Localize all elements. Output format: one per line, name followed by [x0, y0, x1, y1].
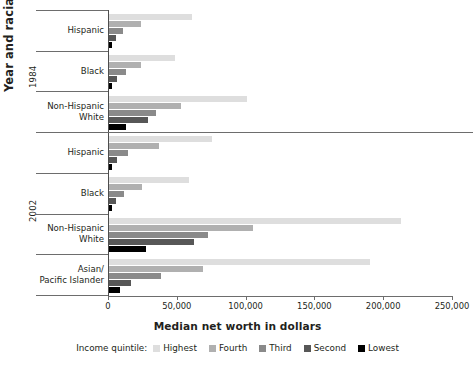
- category-label: Black: [0, 66, 104, 77]
- legend-item-lowest[interactable]: Lowest: [358, 343, 399, 353]
- category-divider: [36, 10, 108, 11]
- category-label: Non-Hispanic White: [0, 101, 104, 122]
- bar-third: [109, 232, 208, 238]
- bar-third: [109, 28, 123, 34]
- category-label: Asian/ Pacific Islander: [0, 264, 104, 285]
- bar-second: [109, 280, 131, 286]
- legend-label: Third: [269, 343, 291, 353]
- x-tick-label: 150,000: [284, 301, 344, 311]
- bar-lowest: [109, 124, 126, 130]
- category-divider: [36, 51, 108, 52]
- bar-lowest: [109, 83, 112, 89]
- bar-highest: [109, 136, 212, 142]
- bar-lowest: [109, 205, 112, 211]
- legend-swatch-icon: [358, 345, 365, 352]
- legend-items-host: HighestFourthThirdSecondLowest: [153, 343, 399, 353]
- bar-highest: [109, 14, 192, 20]
- legend-swatch-icon: [304, 345, 311, 352]
- category-label: Hispanic: [0, 25, 104, 36]
- x-tick-label: 100,000: [216, 301, 276, 311]
- bar-third: [109, 150, 128, 156]
- bar-lowest: [109, 246, 146, 252]
- category-label: Hispanic: [0, 147, 104, 158]
- bar-row: Hispanic: [0, 133, 475, 174]
- bar-cluster: [109, 14, 192, 49]
- x-tick-label: 0: [78, 301, 138, 311]
- bar-second: [109, 198, 116, 204]
- bar-row: Black: [0, 174, 475, 215]
- bar-cluster: [109, 96, 247, 131]
- legend: Income quintile: HighestFourthThirdSecon…: [0, 343, 475, 353]
- bar-row: Non-Hispanic White: [0, 215, 475, 256]
- x-axis-title: Median net worth in dollars: [0, 320, 475, 332]
- bar-cluster: [109, 136, 212, 171]
- bar-cluster: [109, 177, 189, 212]
- legend-swatch-icon: [209, 345, 216, 352]
- bar-second: [109, 76, 117, 82]
- x-tick-label: 200,000: [353, 301, 413, 311]
- bar-lowest: [109, 287, 120, 293]
- bar-cluster: [109, 218, 401, 253]
- bar-second: [109, 117, 148, 123]
- bar-highest: [109, 218, 401, 224]
- bar-highest: [109, 177, 189, 183]
- bar-row: Hispanic: [0, 11, 475, 52]
- legend-item-second[interactable]: Second: [304, 343, 346, 353]
- year-block-divider: [36, 132, 473, 133]
- x-tick: [452, 296, 453, 300]
- bar-lowest: [109, 42, 112, 48]
- bar-third: [109, 191, 124, 197]
- bar-second: [109, 35, 116, 41]
- bar-fourth: [109, 184, 142, 190]
- legend-title: Income quintile:: [76, 343, 147, 353]
- bar-row: Non-Hispanic White: [0, 92, 475, 133]
- category-divider: [36, 214, 108, 215]
- legend-swatch-icon: [153, 345, 160, 352]
- bar-row: Black: [0, 52, 475, 93]
- category-divider: [36, 254, 108, 255]
- legend-label: Lowest: [368, 343, 399, 353]
- x-tick-label: 50,000: [147, 301, 207, 311]
- bar-second: [109, 157, 117, 163]
- bar-cluster: [109, 259, 370, 294]
- x-tick-label: 250,000: [422, 301, 475, 311]
- legend-item-fourth[interactable]: Fourth: [209, 343, 247, 353]
- bar-fourth: [109, 266, 203, 272]
- bar-third: [109, 110, 156, 116]
- legend-item-third[interactable]: Third: [259, 343, 291, 353]
- x-tick: [177, 296, 178, 300]
- bar-fourth: [109, 21, 141, 27]
- bar-highest: [109, 96, 247, 102]
- bar-fourth: [109, 62, 141, 68]
- legend-item-highest[interactable]: Highest: [153, 343, 197, 353]
- bar-fourth: [109, 143, 159, 149]
- category-divider: [36, 295, 108, 296]
- x-axis-line: [108, 296, 453, 297]
- legend-label: Second: [314, 343, 346, 353]
- bar-fourth: [109, 103, 181, 109]
- category-label: Black: [0, 188, 104, 199]
- legend-label: Highest: [163, 343, 197, 353]
- x-tick: [383, 296, 384, 300]
- bar-lowest: [109, 164, 112, 170]
- category-divider: [36, 91, 108, 92]
- legend-swatch-icon: [259, 345, 266, 352]
- legend-label: Fourth: [219, 343, 247, 353]
- bar-highest: [109, 259, 370, 265]
- bar-second: [109, 239, 194, 245]
- x-tick: [108, 296, 109, 300]
- bar-highest: [109, 55, 175, 61]
- bar-fourth: [109, 225, 253, 231]
- category-label: Non-Hispanic White: [0, 223, 104, 244]
- bar-cluster: [109, 55, 175, 90]
- bar-row: Asian/ Pacific Islander: [0, 255, 475, 296]
- chart-container: Year and racial group 1984 2002 Hispanic…: [0, 0, 475, 368]
- bar-third: [109, 69, 126, 75]
- x-tick: [314, 296, 315, 300]
- category-divider: [36, 173, 108, 174]
- bar-third: [109, 273, 161, 279]
- x-tick: [246, 296, 247, 300]
